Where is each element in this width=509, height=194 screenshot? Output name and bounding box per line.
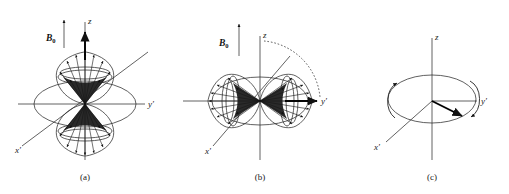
panel-b-drawing: B0 z y′ x′ (b) xyxy=(165,0,343,194)
axis-label-x-prime: x′ xyxy=(373,142,381,152)
axis-label-z: z xyxy=(87,16,92,26)
axis-label-x-prime: x′ xyxy=(204,146,212,156)
axis-label-z: z xyxy=(262,30,267,40)
panel-caption-c: (c) xyxy=(427,172,437,182)
axis-label-x-prime: x′ xyxy=(14,145,22,155)
axis-label-y-prime: y′ xyxy=(147,99,155,109)
b0-label: B0 xyxy=(45,33,56,44)
panel-c: z y′ x′ (c) xyxy=(340,0,509,194)
panel-b: B0 z y′ x′ (b) xyxy=(165,0,343,194)
figure-container: B0 z y′ x′ (a) xyxy=(0,0,509,194)
axis-label-y-prime: y′ xyxy=(480,96,488,106)
panel-caption-a: (a) xyxy=(80,172,90,182)
rotation-arc xyxy=(264,41,320,97)
magnetization-vector xyxy=(432,101,462,116)
b0-label: B0 xyxy=(218,38,229,49)
axis-label-z: z xyxy=(434,32,439,42)
axis-x-prime xyxy=(386,101,432,142)
panel-a-drawing: B0 z y′ x′ (a) xyxy=(0,0,170,194)
panel-c-drawing: z y′ x′ (c) xyxy=(340,0,509,194)
panel-a: B0 z y′ x′ (a) xyxy=(0,0,170,194)
panel-caption-b: (b) xyxy=(255,172,266,182)
right-precession-arrow xyxy=(470,81,480,117)
axis-label-y-prime: y′ xyxy=(320,96,328,106)
